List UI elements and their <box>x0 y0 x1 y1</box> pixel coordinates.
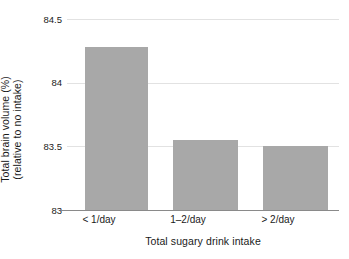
y-tick-label-84: 84 <box>26 78 62 88</box>
y-axis-title: Total brain volume (%) (relative to no i… <box>0 0 38 259</box>
y-axis-title-line1: Total brain volume (%) <box>0 76 11 183</box>
bar-lt-1-per-day <box>85 47 148 210</box>
y-tick-label-83: 83 <box>26 206 62 216</box>
bar-1-2-per-day <box>173 140 238 210</box>
y-tick-label-83-5: 83.5 <box>26 142 62 152</box>
x-tick-label-2: > 2/day <box>233 215 323 225</box>
bar-chart: Total brain volume (%) (relative to no i… <box>0 0 349 259</box>
y-tick-label-84-5: 84.5 <box>26 15 62 25</box>
x-tick-label-1: 1–2/day <box>143 215 233 225</box>
bar-gt-2-per-day <box>263 146 328 210</box>
x-tick-label-0: < 1/day <box>54 215 144 225</box>
bar-series <box>67 19 339 210</box>
x-axis-line <box>61 210 339 211</box>
y-axis-title-line2: (relative to no intake) <box>11 76 24 183</box>
plot-area <box>67 19 339 210</box>
x-axis-title: Total sugary drink intake <box>67 236 339 247</box>
